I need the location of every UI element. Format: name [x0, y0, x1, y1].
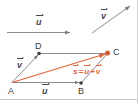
point-label-d: D	[35, 42, 42, 51]
s-glyph: s	[73, 68, 77, 76]
point-label-c: C	[113, 48, 120, 57]
reference-vector-v-line	[92, 6, 130, 33]
vertex-dot-c-core	[106, 52, 109, 55]
sum-plus-glyph: +	[90, 67, 95, 76]
point-label-a: A	[8, 87, 14, 96]
u-glyph-bottom: u	[42, 87, 48, 96]
sum-equation: s=u+v	[73, 68, 100, 76]
vector-addition-figure: u v A B C D u v s=u+v	[0, 0, 138, 104]
sum-equals-glyph: =	[78, 67, 83, 76]
vertex-dot-d	[37, 52, 41, 56]
v-glyph-sum: v	[96, 68, 100, 76]
u-glyph-sum: u	[84, 68, 89, 76]
point-label-b: B	[78, 87, 84, 96]
reference-vector-u-label: u	[36, 18, 42, 27]
u-glyph-top: u	[36, 18, 42, 27]
v-glyph-left: v	[17, 61, 22, 70]
edge-label-u: u	[42, 87, 48, 96]
v-glyph-top: v	[101, 12, 106, 21]
reference-vector-v	[92, 6, 130, 33]
vertex-dot-b	[79, 81, 83, 85]
edge-label-v: v	[17, 61, 22, 70]
reference-vector-v-label: v	[101, 12, 106, 21]
